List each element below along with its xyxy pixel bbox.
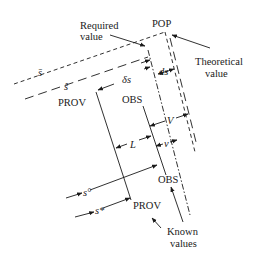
- s-circ-arrow: [66, 193, 82, 198]
- prov-bottom-label: PROV: [133, 200, 161, 211]
- s-star-label: s*: [95, 205, 105, 216]
- theoretical-value-label-line2: value: [205, 68, 228, 79]
- obs-line: [143, 106, 166, 175]
- pop-vertical-line: [165, 32, 195, 152]
- delta-s-arrow-left: [98, 84, 114, 90]
- known-to-obs-arrow: [171, 187, 183, 222]
- L-arrow-left: [116, 144, 127, 148]
- s-bar-label: s̄: [38, 67, 43, 78]
- s-circ-to-obs-line: [90, 165, 157, 190]
- known-values-label: Known: [167, 226, 199, 237]
- theoretical-line: [170, 38, 196, 142]
- obs-top-label: OBS: [122, 94, 143, 105]
- obs-bottom-label: OBS: [158, 174, 179, 185]
- s-star-arrow: [75, 212, 94, 217]
- pop-label: POP: [152, 18, 171, 29]
- required-dashdot-line: [148, 50, 190, 215]
- required-value-label: Required: [80, 20, 119, 31]
- known-values-label-line2: values: [170, 238, 197, 249]
- prov-line: [96, 92, 131, 200]
- theoretical-value-arrow: [172, 35, 210, 48]
- L-arrow-right: [139, 136, 151, 140]
- v-arrow-left: [156, 144, 163, 146]
- required-value-label-line2: value: [80, 31, 103, 42]
- V-label: V: [167, 115, 175, 126]
- v-label: v: [164, 138, 169, 149]
- delta-s-arrow-right: [144, 67, 150, 69]
- prov-top-label: PROV: [58, 97, 86, 108]
- V-arrow-left: [150, 121, 165, 126]
- s-star-to-prov-line: [103, 198, 130, 208]
- theoretical-value-label: Theoretical: [195, 56, 243, 67]
- L-label: L: [129, 139, 136, 150]
- delta-s-label: δs: [122, 74, 131, 85]
- survey-values-diagram: Required value POP Theoretical value s̄ …: [0, 0, 254, 263]
- s-circ-label: s°: [83, 187, 92, 198]
- ds-label: ds: [159, 66, 168, 77]
- ds-arrow-left: [141, 60, 150, 63]
- known-to-prov-arrow: [152, 218, 161, 228]
- s-hat-label: ŝ: [64, 81, 69, 92]
